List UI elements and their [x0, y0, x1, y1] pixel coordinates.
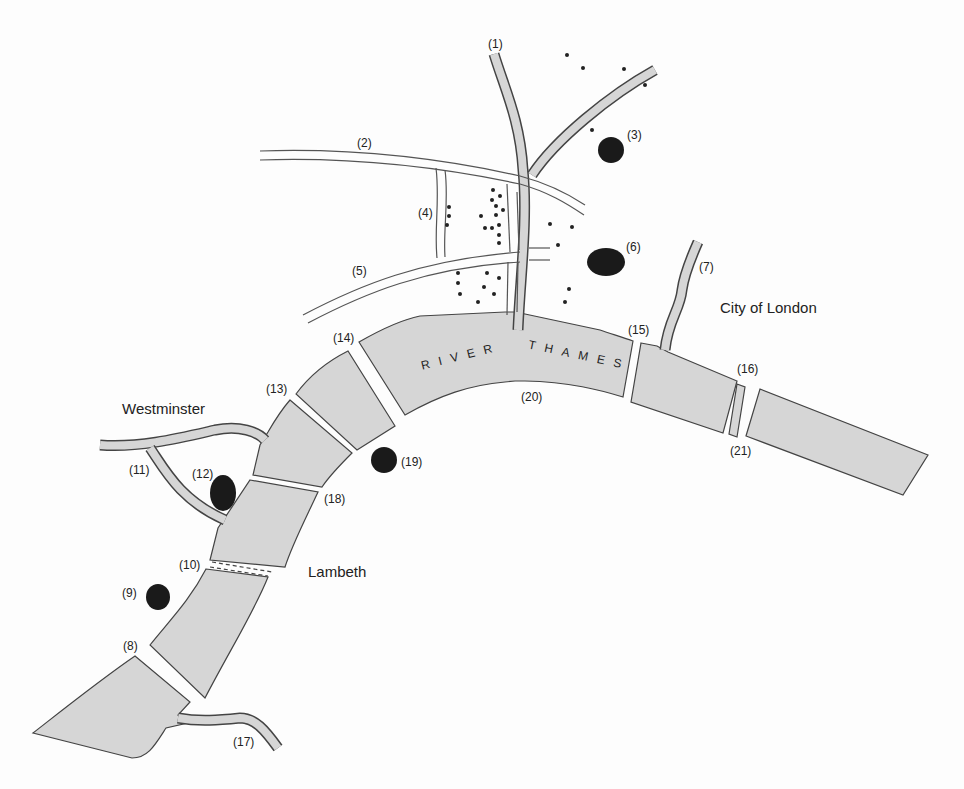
area-westminster: Westminster: [122, 400, 205, 417]
london-thames-map: RIVER THAMES Westminster City of London …: [0, 0, 964, 789]
roads: [260, 54, 655, 330]
landmark-6: [587, 248, 625, 276]
marker-10: (10): [179, 558, 200, 572]
landmark-12: [210, 475, 236, 511]
marker-11: (11): [129, 463, 149, 477]
river-segment-15-16: [631, 343, 737, 433]
river-segment-8-10: [150, 569, 268, 698]
marker-13: (13): [266, 382, 287, 396]
landmark-3: [598, 137, 624, 163]
marker-14: (14): [333, 331, 354, 345]
river-segment-east: [746, 389, 928, 495]
map-canvas: RIVER THAMES Westminster City of London …: [0, 0, 964, 789]
road-4: [436, 168, 437, 258]
marker-8: (8): [123, 639, 138, 653]
marker-7: (7): [699, 260, 714, 274]
marker-17: (17): [233, 735, 254, 749]
marker-16: (16): [737, 362, 758, 376]
marker-15: (15): [628, 323, 649, 337]
marker-6: (6): [626, 240, 641, 254]
river-fleet-7: [665, 242, 698, 350]
river-tyburn-11: [100, 428, 265, 445]
road-5: [303, 252, 520, 315]
area-lambeth: Lambeth: [308, 563, 366, 580]
marker-2: (2): [357, 136, 372, 150]
marker-12: (12): [192, 467, 213, 481]
landmark-19: [371, 447, 397, 473]
marker-9: (9): [122, 586, 137, 600]
marker-4: (4): [418, 206, 433, 220]
marker-3: (3): [627, 128, 642, 142]
marker-1: (1): [488, 37, 503, 51]
marker-21: (21): [730, 444, 751, 458]
marker-19: (19): [401, 455, 422, 469]
river-segment-southwest: [33, 656, 192, 758]
marker-18: (18): [324, 492, 345, 506]
area-city-of-london: City of London: [720, 299, 817, 316]
river-thames: [33, 242, 928, 758]
marker-5: (5): [352, 264, 367, 278]
landmark-9: [146, 584, 170, 610]
marker-20: (20): [521, 390, 542, 404]
